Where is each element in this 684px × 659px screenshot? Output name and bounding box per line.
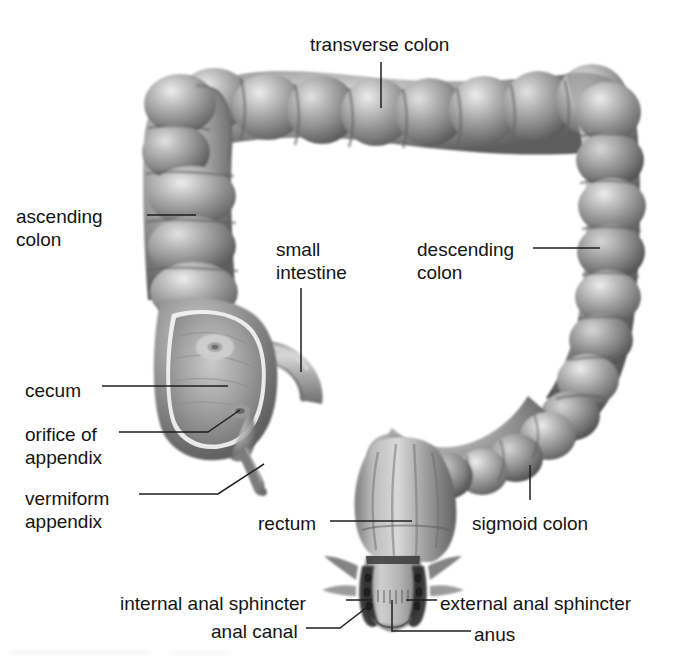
label-external-anal-sphincter: external anal sphincter (440, 592, 631, 615)
label-small-intestine: small intestine (276, 238, 347, 284)
label-transverse-colon: transverse colon (310, 33, 449, 56)
structure-cecum (154, 298, 278, 461)
label-anal-canal: anal canal (211, 620, 298, 643)
ileocecal-orifice (196, 334, 234, 360)
structure-ascending-colon (142, 74, 238, 322)
label-anus: anus (474, 623, 515, 646)
label-rectum: rectum (258, 512, 316, 535)
label-orifice-of-appendix: orifice of appendix (25, 423, 102, 469)
label-sigmoid-colon: sigmoid colon (472, 512, 588, 535)
label-internal-anal-sphincter: internal anal sphincter (120, 592, 306, 615)
label-descending-colon: descending colon (417, 238, 514, 284)
label-cecum: cecum (25, 379, 81, 402)
colon-anatomy-illustration (0, 0, 684, 659)
structure-rectum (355, 437, 457, 562)
label-ascending-colon: ascending colon (16, 205, 103, 251)
label-vermiform-appendix: vermiform appendix (25, 487, 109, 533)
